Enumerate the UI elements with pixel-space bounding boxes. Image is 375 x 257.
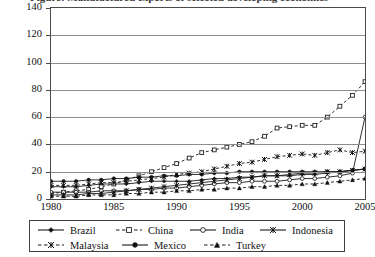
y-axis-tick-label: 100 <box>0 56 42 67</box>
legend-label: China <box>144 225 173 236</box>
legend-marker-triangle-filled-icon <box>202 239 232 251</box>
legend-item-malaysia[interactable]: Malaysia <box>36 239 109 251</box>
x-axis-tick-label: 1990 <box>166 201 187 212</box>
legend-marker-circle-filled-icon <box>120 239 150 251</box>
gridline <box>51 172 365 173</box>
gridline <box>51 35 365 36</box>
legend-marker-diamond-filled-icon <box>36 224 66 236</box>
legend-marker-asterisk-icon <box>258 224 288 236</box>
legend-item-mexico[interactable]: Mexico <box>120 239 186 251</box>
gridline <box>51 63 365 64</box>
legend-label: Turkey <box>232 240 266 251</box>
legend-label: India <box>218 225 244 236</box>
legend-label: Indonesia <box>288 225 333 236</box>
gridline <box>51 90 365 91</box>
x-axis-tick-label: 2005 <box>355 201 375 212</box>
gridline <box>51 144 365 145</box>
legend-marker-asterisk-icon <box>36 239 66 251</box>
legend-marker-circle-open-icon <box>188 224 218 236</box>
x-axis-tick-label: 1985 <box>103 201 124 212</box>
series-mexico <box>51 167 365 183</box>
y-axis-tick-label: 80 <box>0 83 42 94</box>
y-axis-tick-label: 40 <box>0 137 42 148</box>
x-axis-tick-label: 1995 <box>229 201 250 212</box>
y-axis-tick-label: 60 <box>0 110 42 121</box>
y-axis-tick-label: 20 <box>0 165 42 176</box>
gridline <box>51 117 365 118</box>
x-axis: 198019851990199520002005 <box>0 201 375 217</box>
chart-title-cropped: Figure: Manufactured exports of selected… <box>0 0 375 6</box>
legend-label: Brazil <box>66 225 96 236</box>
legend-item-china[interactable]: China <box>114 224 173 236</box>
legend-row: BrazilChinaIndiaIndonesia <box>30 222 344 238</box>
x-axis-tick-label: 1980 <box>41 201 62 212</box>
legend-item-india[interactable]: India <box>188 224 244 236</box>
legend-marker-square-open-icon <box>114 224 144 236</box>
legend: BrazilChinaIndiaIndonesia MalaysiaMexico… <box>29 220 345 252</box>
legend-item-turkey[interactable]: Turkey <box>202 239 266 251</box>
y-axis: 020406080100120140 <box>0 0 50 207</box>
y-axis-tick-label: 140 <box>0 1 42 12</box>
legend-item-brazil[interactable]: Brazil <box>36 224 96 236</box>
plot-area <box>50 7 366 200</box>
plot-inner <box>51 8 365 199</box>
y-axis-tick-label: 120 <box>0 28 42 39</box>
x-axis-tick-label: 2000 <box>292 201 313 212</box>
line-chart: Figure: Manufactured exports of selected… <box>0 0 375 257</box>
legend-item-indonesia[interactable]: Indonesia <box>258 224 333 236</box>
legend-label: Malaysia <box>66 240 109 251</box>
legend-row: MalaysiaMexicoTurkey <box>30 237 344 253</box>
chart-title-text: Figure: Manufactured exports of selected… <box>30 0 328 3</box>
series-layer <box>51 8 365 199</box>
legend-label: Mexico <box>150 240 186 251</box>
